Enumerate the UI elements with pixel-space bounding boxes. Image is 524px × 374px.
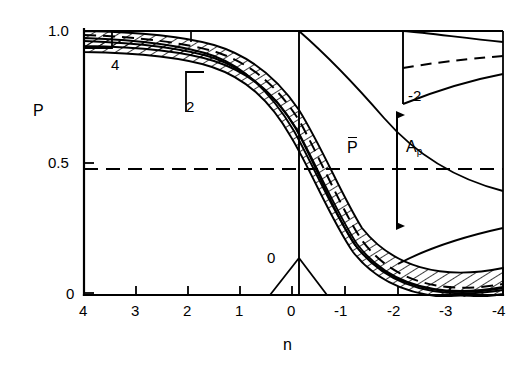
mean-level-label: P bbox=[347, 140, 358, 156]
x-tick-label-1: 1 bbox=[235, 303, 243, 318]
x-tick-label-m1: -1 bbox=[334, 303, 347, 318]
curve-label-0: 0 bbox=[267, 250, 275, 265]
x-tick-label-3: 3 bbox=[131, 303, 139, 318]
inset-dashed-curve bbox=[403, 56, 503, 68]
x-axis-title: n bbox=[283, 337, 292, 353]
amplitude-letter: A bbox=[406, 138, 417, 155]
inset-upper-solid bbox=[403, 31, 503, 42]
x-tick-label-m4: -4 bbox=[492, 303, 505, 318]
figure-container: 1.0 0.5 0 4 3 2 1 0 -1 -2 -3 -4 P n 4 2 … bbox=[0, 0, 524, 374]
curve-label-m2: -2 bbox=[408, 88, 421, 103]
y-tick-label-05: 0.5 bbox=[48, 155, 69, 170]
lower-hatched-band bbox=[84, 38, 503, 297]
p-bar-glyph: P bbox=[347, 140, 358, 156]
x-tick-label-0: 0 bbox=[287, 303, 295, 318]
mean-dashed-curve bbox=[84, 35, 503, 288]
y-tick-label-0: 0 bbox=[66, 286, 74, 301]
upper-hatched-band bbox=[84, 31, 503, 292]
x-tick-label-m3: -3 bbox=[439, 303, 452, 318]
axis-lines bbox=[84, 29, 503, 295]
x-tick-label-4: 4 bbox=[79, 303, 87, 318]
y-axis-ticks bbox=[84, 31, 94, 293]
x-tick-label-2: 2 bbox=[183, 303, 191, 318]
amplitude-label: Ap bbox=[406, 139, 422, 157]
x-tick-label-m2: -2 bbox=[387, 303, 400, 318]
y-tick-label-1: 1.0 bbox=[48, 23, 69, 38]
curve-label-4: 4 bbox=[111, 57, 119, 72]
amplitude-subscript: p bbox=[417, 146, 423, 157]
mean-p-text: P bbox=[347, 139, 358, 156]
curve-label-2: 2 bbox=[186, 99, 194, 114]
lower-envelope-right bbox=[398, 228, 503, 264]
y-axis-title: P bbox=[33, 103, 44, 119]
overbar bbox=[348, 137, 358, 138]
